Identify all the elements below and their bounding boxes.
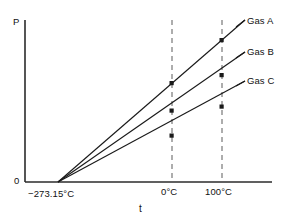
tick-label-zero-celsius: 0°C <box>161 186 177 197</box>
origin-label: 0 <box>14 175 19 186</box>
series-label-gas-a: Gas A <box>247 15 273 26</box>
tick-label-absolute-zero: −273.15°C <box>28 188 74 199</box>
gas-pressure-temperature-chart: P 0 −273.15°C 0°C 100°C t Gas A Gas B Ga… <box>0 0 292 222</box>
x-axis-label: t <box>139 203 142 214</box>
tick-label-hundred-celsius: 100°C <box>205 186 232 197</box>
leader-line-gas-a <box>236 20 245 27</box>
series-label-gas-c: Gas C <box>247 75 274 86</box>
datapoint-gas-a-100c <box>220 38 224 42</box>
series-line-gas-c <box>58 81 245 182</box>
datapoint-gas-b-100c <box>220 73 224 77</box>
datapoint-gas-a-0c <box>170 81 174 85</box>
series-label-gas-b: Gas B <box>247 46 274 57</box>
y-axis-label: P <box>13 16 19 27</box>
series-line-gas-b <box>58 52 245 182</box>
datapoint-gas-c-100c <box>220 105 224 109</box>
datapoint-gas-b-0c <box>170 109 174 113</box>
series-line-gas-a <box>58 20 245 182</box>
leader-line-gas-b <box>236 52 245 58</box>
datapoint-gas-c-0c <box>170 134 174 138</box>
leader-line-gas-c <box>236 81 245 86</box>
